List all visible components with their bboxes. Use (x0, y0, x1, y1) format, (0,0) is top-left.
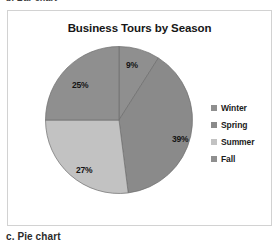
legend-label-spring: Spring (221, 120, 247, 130)
legend-item-winter: Winter (211, 99, 275, 116)
legend-label-winter: Winter (221, 103, 247, 113)
pie-chart: 9% 39% 27% 25% (45, 46, 193, 194)
pie-slice-label-winter: 9% (126, 60, 138, 70)
pie-slice-label-summer: 27% (76, 165, 92, 175)
pie-svg (45, 46, 193, 194)
legend-swatch-icon-fall (211, 156, 217, 162)
legend-item-spring: Spring (211, 116, 275, 133)
pie-slice-label-spring: 39% (172, 134, 188, 144)
chart-legend: Winter Spring Summer Fall (211, 99, 275, 167)
legend-item-summer: Summer (211, 133, 275, 150)
figure-caption-above: b. Bar chart (6, 0, 57, 3)
legend-item-fall: Fall (211, 150, 275, 167)
legend-swatch-icon-summer (211, 139, 217, 145)
chart-title: Business Tours by Season (8, 22, 271, 34)
legend-swatch-icon-spring (211, 122, 217, 128)
legend-label-fall: Fall (221, 154, 235, 164)
pie-slice-summer (46, 120, 129, 194)
pie-slice-label-fall: 25% (72, 80, 88, 90)
legend-swatch-icon-winter (211, 105, 217, 111)
legend-label-summer: Summer (221, 137, 254, 147)
pie-slice-group (46, 47, 193, 194)
figure-caption-below: c. Pie chart (6, 231, 61, 242)
chart-frame: Business Tours by Season 9% 39% 27% 25% … (7, 10, 272, 226)
